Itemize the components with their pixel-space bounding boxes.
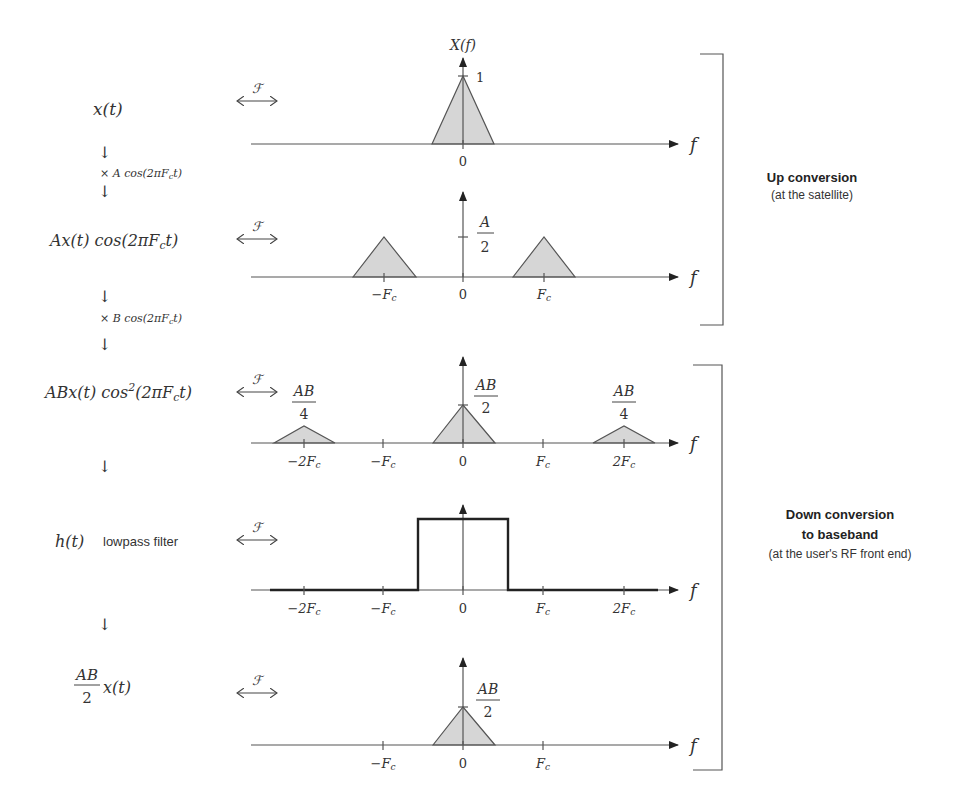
axis-label: f <box>688 134 700 155</box>
tick-label: 2Fc <box>612 454 635 470</box>
multiply-A-carrier: × A cos(2πFct) <box>100 167 182 181</box>
tick-label: 0 <box>459 154 467 169</box>
down-arrow-icon: ↓ <box>98 287 111 306</box>
side-peak-label: AB 4 <box>612 383 636 422</box>
svg-text:2: 2 <box>484 704 493 720</box>
svg-text:ℱ: ℱ <box>252 673 265 688</box>
svg-text:to baseband: to baseband <box>802 527 879 542</box>
fourier-arrow-icon: ℱ <box>237 673 277 693</box>
svg-text:2: 2 <box>481 239 490 255</box>
plot-title: X(f) <box>449 37 476 53</box>
spectrum-plot-lowpass-filter: −2Fc −Fc 0 Fc 2Fc f <box>251 505 700 617</box>
tick-label: Fc <box>535 454 550 470</box>
frequency-conversion-diagram: x(t) ↓ × A cos(2πFct) ↓ Ax(t) cos(2πFct)… <box>0 0 978 811</box>
fourier-arrow-icon: ℱ <box>237 81 277 101</box>
tick-label: −2Fc <box>287 601 320 617</box>
tick-label: Fc <box>535 601 550 617</box>
svg-text:ℱ: ℱ <box>252 219 265 234</box>
side-peak-label: AB 4 <box>292 383 316 422</box>
tick-label: Fc <box>535 756 550 772</box>
svg-text:AB: AB <box>292 383 314 399</box>
spectrum-plot-upconverted: A 2 −Fc 0 Fc f <box>251 192 700 303</box>
axis-label: f <box>688 580 700 601</box>
tick-label: −Fc <box>371 454 396 470</box>
fourier-arrow-icon: ℱ <box>237 219 277 239</box>
axis-label: f <box>688 267 700 288</box>
tick-label: Fc <box>536 287 551 303</box>
signal-mixed: ABx(t) cos2(2πFct) <box>43 381 192 404</box>
svg-text:ℱ: ℱ <box>252 81 265 96</box>
axis-label: f <box>688 433 700 454</box>
fourier-arrow-icon: ℱ <box>237 520 277 540</box>
tick-label: 0 <box>459 287 467 302</box>
fourier-arrow-icon: ℱ <box>237 372 277 392</box>
fourier-arrows: ℱ ℱ ℱ ℱ ℱ <box>237 81 277 693</box>
axis-label: f <box>688 735 700 756</box>
svg-text:Up conversion: Up conversion <box>767 170 857 185</box>
down-arrow-icon: ↓ <box>98 335 111 354</box>
svg-text:(at the user's RF front end): (at the user's RF front end) <box>768 547 911 561</box>
peak-label: 1 <box>476 70 484 85</box>
down-arrow-icon: ↓ <box>98 457 111 476</box>
svg-text:ℱ: ℱ <box>252 520 265 535</box>
tick-label: −Fc <box>371 756 396 772</box>
tick-label: 0 <box>459 454 467 469</box>
svg-text:A: A <box>478 214 490 230</box>
svg-text:2: 2 <box>482 400 491 416</box>
spectrum-plot-baseband: X(f) 1 0 f <box>251 37 700 169</box>
up-conversion-bracket <box>700 54 723 325</box>
tick-label: 0 <box>459 756 467 771</box>
svg-text:AB: AB <box>612 383 634 399</box>
svg-text:Down conversion: Down conversion <box>786 507 894 522</box>
up-conversion-annotation: Up conversion (at the satellite) <box>767 170 857 202</box>
time-domain-column: x(t) ↓ × A cos(2πFct) ↓ Ax(t) cos(2πFct)… <box>43 99 192 707</box>
spectrum-plot-output: AB 2 −Fc 0 Fc f <box>251 658 700 772</box>
signal-x-t: x(t) <box>93 99 123 119</box>
svg-text:AB: AB <box>74 666 98 684</box>
lowpass-filter-label: lowpass filter <box>103 534 179 549</box>
down-conversion-bracket <box>693 365 722 770</box>
down-conversion-annotation: Down conversion to baseband (at the user… <box>768 507 911 561</box>
peak-label: AB 2 <box>476 681 500 720</box>
multiply-B-carrier: × B cos(2πFct) <box>100 312 182 326</box>
tick-label: −Fc <box>371 601 396 617</box>
tick-label: 2Fc <box>612 601 635 617</box>
filter-h-t: h(t) <box>55 532 84 551</box>
center-peak-label: AB 2 <box>474 377 498 416</box>
tick-label: −Fc <box>372 287 397 303</box>
down-arrow-icon: ↓ <box>98 143 111 162</box>
signal-baseband-output: AB 2 x(t) <box>74 666 131 707</box>
tick-label: −2Fc <box>287 454 320 470</box>
peak-label: A 2 <box>477 214 494 255</box>
svg-text:4: 4 <box>300 406 309 422</box>
signal-modulated: Ax(t) cos(2πFct) <box>48 231 178 252</box>
svg-text:AB: AB <box>476 681 498 697</box>
spectrum-plot-mixed: AB 4 AB 2 AB 4 −2Fc −Fc 0 Fc 2Fc f <box>251 357 700 470</box>
svg-text:ℱ: ℱ <box>252 372 265 387</box>
svg-text:AB: AB <box>474 377 496 393</box>
down-arrow-icon: ↓ <box>98 615 111 634</box>
svg-text:4: 4 <box>620 406 629 422</box>
svg-text:x(t): x(t) <box>103 678 131 697</box>
down-arrow-icon: ↓ <box>98 182 111 201</box>
tick-label: 0 <box>459 601 467 616</box>
svg-text:2: 2 <box>82 689 92 707</box>
svg-text:(at the satellite): (at the satellite) <box>771 188 853 202</box>
